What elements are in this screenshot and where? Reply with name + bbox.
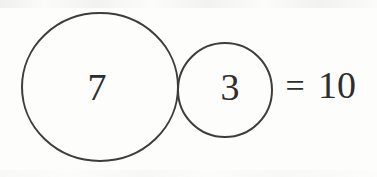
small-circle-value: 3 <box>221 68 240 106</box>
large-circle-value: 7 <box>88 68 107 106</box>
result-value: 10 <box>318 66 356 104</box>
equals-sign: = <box>285 69 304 103</box>
number-bond-diagram: 7 3 = 10 <box>0 0 377 177</box>
